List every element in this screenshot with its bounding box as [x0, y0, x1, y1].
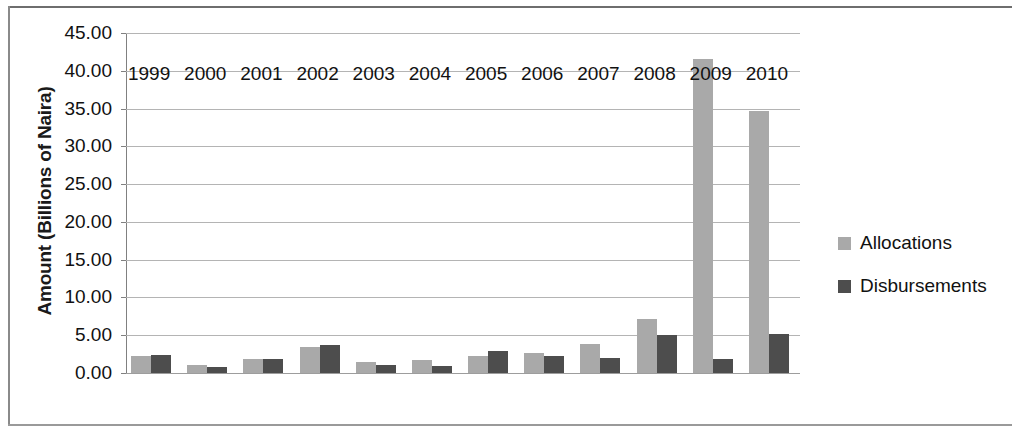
bar-allocations-2009 — [693, 59, 713, 373]
bar-group-2007: 2007 — [575, 33, 631, 373]
y-tick-label-5.00: 5.00 — [2, 324, 112, 346]
x-tick-label-2005: 2005 — [456, 63, 516, 85]
bar-allocations-2003 — [356, 362, 376, 373]
legend-item-disbursements: Disbursements — [838, 275, 1008, 297]
bar-disbursements-2008 — [657, 335, 677, 373]
bar-disbursements-2006 — [544, 356, 564, 373]
x-tick-label-2002: 2002 — [288, 63, 348, 85]
x-tick-label-2001: 2001 — [231, 63, 291, 85]
x-tick-label-1999: 1999 — [119, 63, 179, 85]
bar-group-2006: 2006 — [519, 33, 575, 373]
y-tick-label-10.00: 10.00 — [2, 286, 112, 308]
x-tick-label-2000: 2000 — [175, 63, 235, 85]
bar-group-2004: 2004 — [407, 33, 463, 373]
bar-group-2005: 2005 — [463, 33, 519, 373]
bar-group-2010: 2010 — [744, 33, 800, 373]
bar-allocations-2000 — [187, 365, 207, 373]
bar-group-2008: 2008 — [632, 33, 688, 373]
bar-disbursements-2001 — [263, 359, 283, 373]
bar-allocations-2002 — [300, 347, 320, 373]
chart-legend: Allocations Disbursements — [838, 232, 1008, 318]
y-tick-label-0.00: 0.00 — [2, 362, 112, 384]
bar-disbursements-2002 — [320, 345, 340, 373]
page-border-top — [8, 6, 1012, 8]
bar-group-1999: 1999 — [126, 33, 182, 373]
gridline-0.00 — [126, 373, 800, 374]
x-tick-label-2009: 2009 — [681, 63, 741, 85]
bar-allocations-2007 — [580, 344, 600, 373]
bar-disbursements-2007 — [600, 358, 620, 373]
x-tick-label-2008: 2008 — [625, 63, 685, 85]
bar-allocations-2005 — [468, 356, 488, 373]
legend-label-disbursements: Disbursements — [860, 275, 987, 297]
bar-disbursements-2009 — [713, 359, 733, 373]
page-border-bottom — [8, 424, 1012, 426]
legend-swatch-disbursements — [838, 280, 851, 293]
bar-disbursements-2005 — [488, 351, 508, 373]
bar-disbursements-2000 — [207, 367, 227, 373]
y-tick-label-25.00: 25.00 — [2, 173, 112, 195]
y-tick-label-20.00: 20.00 — [2, 211, 112, 233]
bar-allocations-2006 — [524, 353, 544, 373]
x-tick-label-2007: 2007 — [568, 63, 628, 85]
legend-swatch-allocations — [838, 237, 851, 250]
y-tick-label-15.00: 15.00 — [2, 249, 112, 271]
bar-allocations-2010 — [749, 111, 769, 373]
bar-allocations-2008 — [637, 319, 657, 373]
y-tick-label-45.00: 45.00 — [2, 22, 112, 44]
x-tick-label-2003: 2003 — [344, 63, 404, 85]
legend-label-allocations: Allocations — [860, 232, 952, 254]
y-tick-label-30.00: 30.00 — [2, 135, 112, 157]
bar-group-2009: 2009 — [688, 33, 744, 373]
bar-allocations-2004 — [412, 360, 432, 373]
bar-allocations-1999 — [131, 356, 151, 373]
bar-allocations-2001 — [243, 359, 263, 373]
bar-group-2002: 2002 — [295, 33, 351, 373]
x-tick-label-2010: 2010 — [737, 63, 797, 85]
x-tick-label-2004: 2004 — [400, 63, 460, 85]
chart-figure: Amount (Billions of Naira) 0.005.0010.00… — [0, 0, 1012, 428]
bar-disbursements-1999 — [151, 355, 171, 373]
bar-disbursements-2003 — [376, 365, 396, 373]
bar-group-2000: 2000 — [182, 33, 238, 373]
bar-group-2003: 2003 — [351, 33, 407, 373]
x-tick-label-2006: 2006 — [512, 63, 572, 85]
bar-disbursements-2004 — [432, 366, 452, 373]
y-tick-label-35.00: 35.00 — [2, 98, 112, 120]
y-tick-label-40.00: 40.00 — [2, 60, 112, 82]
bar-group-2001: 2001 — [238, 33, 294, 373]
bar-disbursements-2010 — [769, 334, 789, 373]
legend-item-allocations: Allocations — [838, 232, 1008, 254]
y-tick-mark — [121, 373, 126, 374]
plot-area: 1999200020012002200320042005200620072008… — [126, 33, 800, 373]
